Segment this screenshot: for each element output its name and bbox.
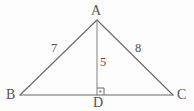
measure-label-ab: 7	[51, 42, 57, 55]
vertex-label-c: C	[177, 88, 186, 102]
measure-label-ac: 8	[135, 42, 141, 55]
segment-ac	[97, 20, 173, 95]
vertex-label-b: B	[6, 88, 15, 102]
segment-ab	[20, 20, 97, 95]
geometry-figure: A B C D 7 8 5	[0, 0, 194, 111]
measure-label-ad: 5	[100, 56, 106, 69]
vertex-label-a: A	[91, 4, 101, 18]
right-angle-dot	[100, 91, 102, 93]
vertex-label-d: D	[93, 96, 103, 110]
